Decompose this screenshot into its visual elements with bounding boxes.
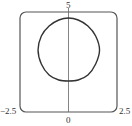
plot-area	[0, 0, 132, 126]
x-tick-left-label: −2.5	[0, 107, 16, 116]
y-tick-top-label: 5	[66, 1, 71, 10]
x-tick-center-label: 0	[66, 116, 71, 125]
x-tick-right-label: 2.5	[119, 107, 130, 116]
